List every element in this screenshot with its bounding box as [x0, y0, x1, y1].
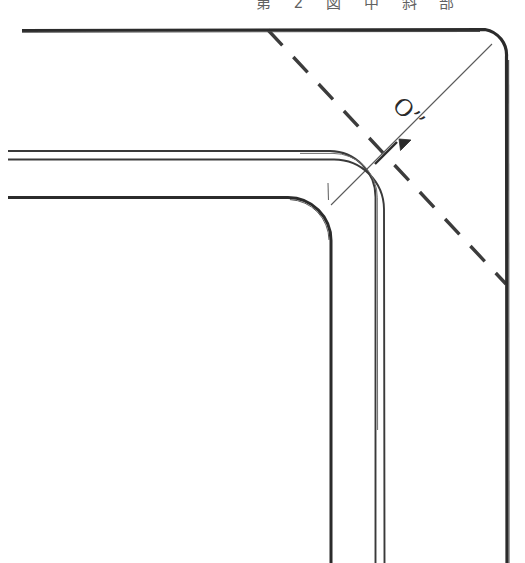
drawing-background [0, 0, 525, 563]
line-drawing-canvas [0, 0, 525, 563]
short-vertical-tick [328, 183, 329, 200]
technical-drawing-figure: 第 2 図 中 斜 部 O’’ [0, 0, 525, 563]
